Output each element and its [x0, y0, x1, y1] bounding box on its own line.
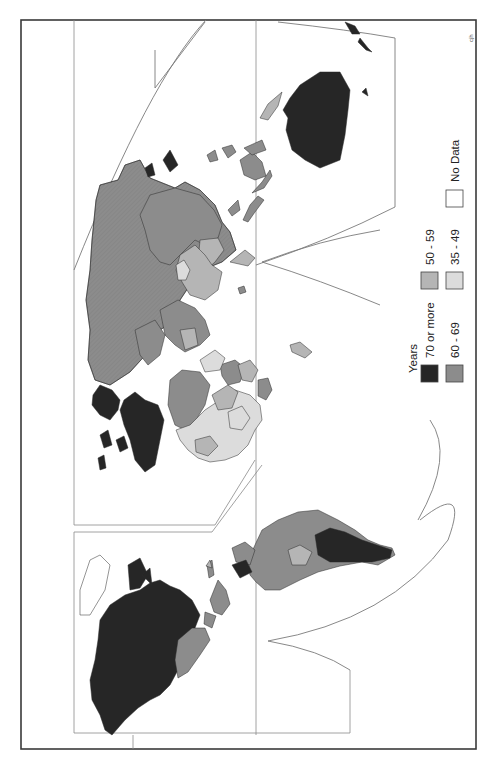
- land-masses: [80, 22, 395, 735]
- legend-label-70-plus: 70 or more: [424, 302, 436, 358]
- region-western-europe: [92, 385, 120, 420]
- legend-label-no-data: No Data: [449, 139, 461, 182]
- legend-swatch-35-49: [446, 272, 463, 289]
- legend-label-60-69: 60 - 69: [449, 322, 461, 358]
- legend-swatch-no-data: [446, 190, 463, 207]
- map-frame: [21, 20, 476, 749]
- legend-swatch-60-69: [446, 365, 463, 382]
- legend: Years 70 or more 60 - 69 50 - 59 35 - 49…: [407, 139, 463, 382]
- region-japan: [243, 196, 264, 222]
- region-central-america: [210, 580, 230, 615]
- legend-swatch-70-plus: [421, 365, 438, 382]
- legend-swatch-50-59: [421, 272, 438, 289]
- legend-title: Years: [407, 344, 419, 373]
- world-map: Years 70 or more 60 - 69 50 - 59 35 - 49…: [0, 0, 494, 766]
- legend-label-50-59: 50 - 59: [424, 229, 436, 265]
- region-new-zealand: [345, 22, 360, 34]
- region-australia: [283, 72, 350, 168]
- credit-mark: cjh: [468, 34, 474, 42]
- legend-label-35-49: 35 - 49: [449, 229, 461, 265]
